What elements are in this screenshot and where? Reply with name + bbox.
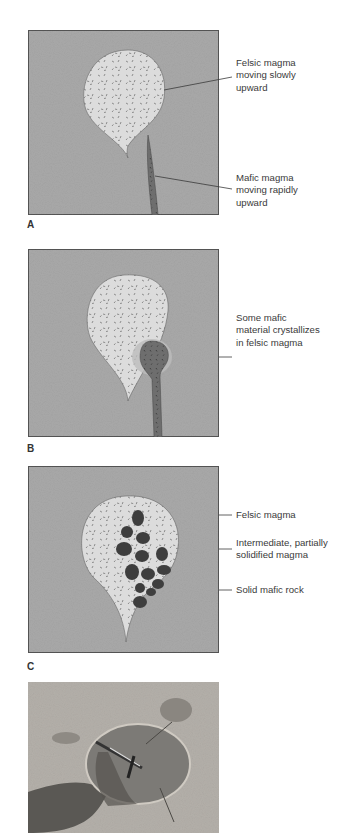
panel-label-b: B: [27, 443, 34, 454]
callout-mafic-crystallizes: Some mafic material crystallizes in fels…: [236, 312, 320, 349]
callout-solid-mafic-rock: Solid mafic rock: [236, 584, 304, 596]
small-enclave: [160, 698, 192, 722]
outcrop-photograph: [28, 682, 219, 833]
callout-mafic-moving-rapidly: Mafic magma moving rapidly upward: [236, 172, 298, 209]
callout-intermediate-magma: Intermediate, partially solidified magma: [236, 537, 328, 562]
panel-b-diagram: [28, 249, 219, 437]
panel-label-a: A: [27, 219, 34, 230]
panel-label-c: C: [27, 661, 34, 672]
callout-felsic-moving-slowly: Felsic magma moving slowly upward: [236, 57, 296, 94]
callout-felsic-magma: Felsic magma: [236, 509, 296, 521]
panel-c-diagram: [28, 466, 219, 653]
